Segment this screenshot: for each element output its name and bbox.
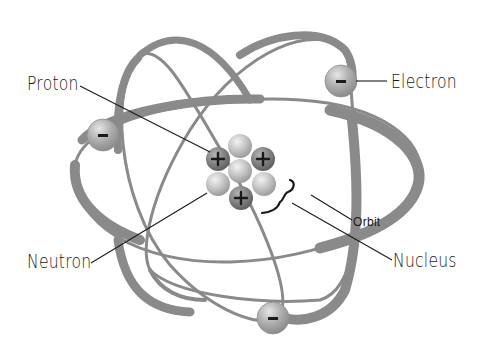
electron-left <box>87 119 119 151</box>
electron-top-right <box>325 65 357 97</box>
electron-bottom <box>257 302 289 334</box>
label-proton: Proton <box>27 72 79 94</box>
label-orbit: Orbit <box>353 215 381 229</box>
neutron <box>252 172 276 196</box>
minus-icon <box>336 80 346 83</box>
orbit-leader <box>311 195 352 220</box>
minus-icon <box>268 317 278 320</box>
neutron <box>206 172 230 196</box>
atom-diagram: Proton Electron Neutron Nucleus Orbit <box>0 0 480 356</box>
label-nucleus: Nucleus <box>393 249 457 271</box>
minus-icon <box>98 134 108 137</box>
atom-illustration <box>0 0 480 356</box>
neutron <box>228 134 252 158</box>
neutron <box>228 159 252 183</box>
label-electron: Electron <box>391 70 457 92</box>
orbit-horizontal <box>75 99 421 262</box>
label-neutron: Neutron <box>27 250 91 272</box>
